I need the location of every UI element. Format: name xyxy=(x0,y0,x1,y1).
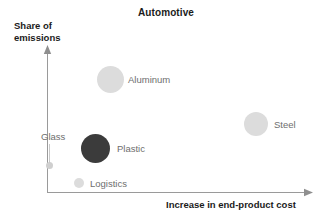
bubble-glass[interactable] xyxy=(46,162,53,169)
y-axis-arrow-icon xyxy=(44,45,51,54)
bubble-label-glass: Glass xyxy=(41,131,65,142)
glass-leader-line xyxy=(49,144,50,163)
x-axis-arrow-icon xyxy=(304,189,313,196)
bubble-chart-figure: Automotive Share of emissions Aluminum S… xyxy=(0,0,332,217)
x-axis-title: Increase in end-product cost xyxy=(166,199,296,210)
bubble-label-steel: Steel xyxy=(274,119,296,130)
bubble-aluminum[interactable] xyxy=(97,66,124,93)
bubble-logistics[interactable] xyxy=(74,178,84,188)
bubble-label-aluminum: Aluminum xyxy=(128,74,170,85)
bubble-steel[interactable] xyxy=(244,112,268,136)
bubble-label-logistics: Logistics xyxy=(90,178,127,189)
chart-axes xyxy=(0,0,332,217)
bubble-label-plastic: Plastic xyxy=(117,143,145,154)
bubble-plastic[interactable] xyxy=(81,134,110,163)
